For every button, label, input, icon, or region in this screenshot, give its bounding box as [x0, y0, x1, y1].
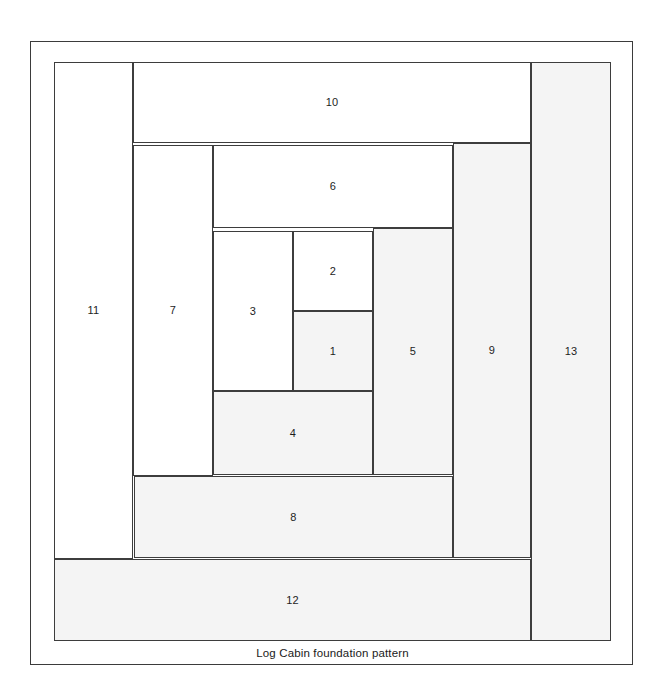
pattern-piece-1: 1 [293, 311, 373, 391]
pattern-piece-11: 11 [54, 62, 133, 559]
pattern-piece-10: 10 [133, 62, 531, 143]
pattern-piece-label: 8 [290, 512, 296, 523]
pattern-piece-6: 6 [213, 145, 453, 228]
pattern-piece-label: 7 [170, 305, 176, 316]
pattern-piece-label: 9 [489, 345, 495, 356]
pattern-piece-2: 2 [293, 231, 373, 311]
pattern-piece-9: 9 [453, 143, 531, 558]
pattern-piece-5: 5 [373, 228, 453, 475]
pattern-piece-label: 4 [290, 428, 296, 439]
figure-caption: Log Cabin foundation pattern [256, 647, 409, 659]
figure-caption-strip: Log Cabin foundation pattern [54, 641, 611, 664]
pattern-piece-3: 3 [213, 231, 293, 391]
pattern-piece-label: 12 [286, 595, 299, 606]
pattern-piece-7: 7 [133, 145, 213, 476]
pattern-piece-12: 12 [54, 559, 531, 641]
pattern-piece-8: 8 [134, 476, 453, 558]
pattern-piece-label: 1 [330, 346, 336, 357]
pattern-piece-label: 3 [250, 306, 256, 317]
pattern-piece-label: 6 [330, 181, 336, 192]
pattern-piece-13: 13 [531, 62, 611, 641]
pattern-block: 12345678910111213 [54, 62, 611, 641]
pattern-piece-label: 11 [88, 305, 100, 316]
log-cabin-figure: 12345678910111213 Log Cabin foundation p… [0, 0, 660, 693]
pattern-piece-label: 10 [326, 97, 339, 108]
pattern-piece-4: 4 [213, 391, 373, 475]
pattern-piece-label: 13 [565, 346, 578, 357]
pattern-piece-label: 5 [410, 346, 416, 357]
pattern-piece-label: 2 [330, 266, 336, 277]
